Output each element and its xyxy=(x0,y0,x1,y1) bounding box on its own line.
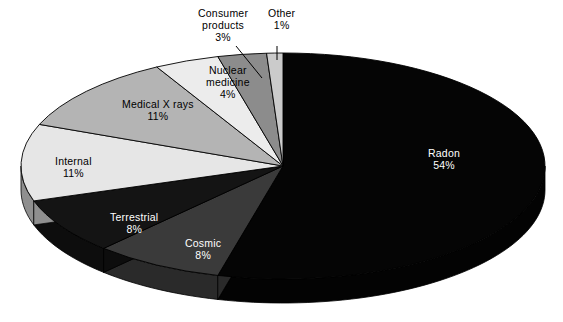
pie-chart: Radon 54% Cosmic 8% Terrestrial 8% Inter… xyxy=(0,0,563,322)
pie-top-slices xyxy=(21,53,545,279)
pie-chart-canvas xyxy=(0,0,563,322)
